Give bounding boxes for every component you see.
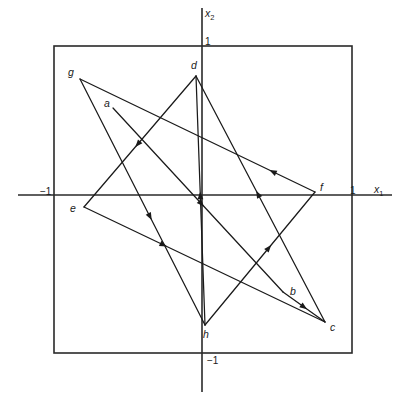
y-tick-minus-one: −1 xyxy=(207,356,218,366)
x1-axis-label-sub: 1 xyxy=(379,189,383,198)
point-label-g: g xyxy=(68,67,74,78)
point-label-c: c xyxy=(330,322,335,333)
point-label-e: e xyxy=(70,203,76,214)
point-label-d: d xyxy=(191,60,197,71)
trajectory-segment-h-d xyxy=(196,76,205,325)
point-label-a: a xyxy=(104,98,110,109)
x-tick-one: 1 xyxy=(350,186,356,196)
arrow-icon-b-c xyxy=(299,302,307,309)
point-label-b: b xyxy=(290,286,296,297)
point-label-f: f xyxy=(320,182,323,193)
point-label-h: h xyxy=(203,329,209,340)
y-tick-one: 1 xyxy=(205,37,211,47)
trajectory-segment-g-h xyxy=(80,79,205,325)
x-tick-minus-one: −1 xyxy=(40,187,51,197)
arrow-icon-f-g xyxy=(269,170,277,176)
x2-axis-label-sub: 2 xyxy=(210,13,214,22)
phase-plot-figure: a b c d e f g h −1 1 1 −1 x1 x2 xyxy=(0,0,400,400)
x2-axis-label: x2 xyxy=(205,8,214,22)
x1-axis-label: x1 xyxy=(374,184,383,198)
plot-canvas xyxy=(0,0,400,400)
trajectory-segment-f-g xyxy=(80,79,315,192)
trajectory-segment-c-d xyxy=(196,76,325,322)
trajectory-segment-h-f xyxy=(205,192,315,325)
arrow-icon-g-h xyxy=(146,212,152,220)
unit-square-box xyxy=(54,46,352,353)
